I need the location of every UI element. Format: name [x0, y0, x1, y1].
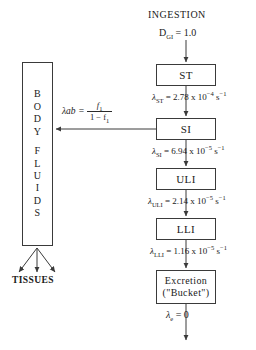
rate-exponent: −4 [207, 90, 214, 97]
gi-tract-diagram: INGESTION DGI = 1.0 ST SI ULI LLI Excret… [0, 0, 256, 350]
compartment-st-label: ST [179, 69, 193, 81]
rate-unit-exponent: −1 [218, 144, 225, 151]
absorption-numerator: f1 [94, 101, 106, 111]
intake-value: = 1.0 [176, 27, 197, 38]
body-fluids-letter: B [34, 88, 41, 100]
rate-mantissa: 2.14 [172, 196, 188, 206]
rate-equals: = [165, 196, 170, 206]
ingestion-label: INGESTION [148, 10, 206, 20]
rate-unit-exponent: −1 [220, 244, 227, 251]
rate-subscript: e [170, 315, 173, 322]
body-fluids-word-fluids: F L U I D S [34, 145, 41, 219]
rate-equals: = [166, 92, 171, 102]
rate-unit-exponent: −1 [220, 90, 227, 97]
rate-equals: = 0 [176, 309, 189, 320]
rate-times: x [190, 196, 195, 206]
intake-subscript: GI [166, 33, 173, 40]
body-fluids-letter: L [34, 158, 40, 170]
transfer-rate-lli: λLLI = 1.16 x 10−5 s−1 [150, 246, 227, 256]
tissues-label: TISSUES [12, 275, 54, 285]
intake-dose-label: DGI = 1.0 [159, 28, 196, 38]
compartment-excretion-label-line2: ("Bucket") [162, 287, 209, 299]
body-fluids-letter: U [34, 170, 41, 182]
compartment-excretion-label-line1: Excretion [165, 275, 207, 287]
body-fluids-letter: S [35, 207, 41, 219]
compartment-excretion[interactable]: Excretion ("Bucket") [156, 270, 216, 304]
body-fluids-letter: O [34, 101, 41, 113]
rate-equals: = [164, 146, 169, 156]
compartment-body-fluids[interactable]: B O D Y F L U I D S [22, 62, 53, 246]
rate-base: 10 [198, 246, 207, 256]
compartment-lli-label: LLI [177, 223, 195, 235]
rate-times: x [189, 146, 194, 156]
body-fluids-word-body: B O D Y [34, 88, 41, 138]
rate-exponent: −5 [205, 144, 212, 151]
body-fluids-letter: D [34, 113, 41, 125]
transfer-rate-si: λSI = 6.94 x 10−5 s−1 [152, 146, 225, 156]
body-fluids-letter: F [35, 145, 41, 157]
rate-mantissa: 2.78 [173, 92, 189, 102]
absorption-symbol: λab [62, 106, 76, 116]
arrow-body-fluids-to-tissues-left [19, 248, 37, 272]
rate-times: x [191, 92, 196, 102]
compartment-si[interactable]: SI [156, 118, 216, 140]
rate-base: 10 [197, 196, 206, 206]
compartment-uli[interactable]: ULI [156, 168, 216, 190]
rate-equals: = [166, 246, 171, 256]
transfer-rate-excretion: λe = 0 [166, 310, 189, 320]
transfer-rate-uli: λULI = 2.14 x 10−5 s−1 [148, 196, 226, 206]
rate-subscript: ULI [152, 201, 163, 208]
transfer-rate-st: λST = 2.78 x 10−4 s−1 [152, 92, 226, 102]
compartment-st[interactable]: ST [156, 64, 216, 86]
rate-subscript: SI [156, 151, 162, 158]
rate-times: x [192, 246, 197, 256]
absorption-denominator: 1 − f1 [87, 112, 112, 122]
absorption-fraction: f1 1 − f1 [87, 101, 112, 121]
absorption-equals: = [79, 106, 84, 116]
arrow-body-fluids-to-tissues-right [37, 248, 55, 272]
rate-subscript: ST [156, 97, 164, 104]
compartment-uli-label: ULI [176, 173, 196, 185]
rate-exponent: −5 [207, 244, 214, 251]
body-fluids-letter: Y [34, 126, 41, 138]
rate-mantissa: 1.16 [174, 246, 190, 256]
rate-subscript: LLI [154, 251, 164, 258]
absorption-rate-label: λab = f1 1 − f1 [62, 101, 112, 121]
compartment-si-label: SI [181, 123, 192, 135]
rate-exponent: −5 [206, 194, 213, 201]
rate-unit-exponent: −1 [219, 194, 226, 201]
body-fluids-letter: I [36, 182, 40, 194]
rate-base: 10 [196, 146, 205, 156]
compartment-lli[interactable]: LLI [156, 218, 216, 240]
rate-base: 10 [198, 92, 207, 102]
body-fluids-letter: D [34, 195, 41, 207]
rate-mantissa: 6.94 [171, 146, 187, 156]
